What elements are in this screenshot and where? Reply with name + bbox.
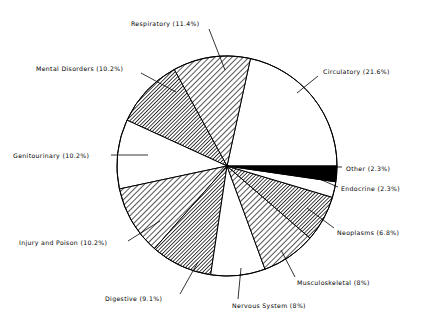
slice-label: Respiratory (11.4%) bbox=[131, 20, 200, 28]
slice-label: Nervous System (8%) bbox=[232, 302, 306, 310]
pie-chart-figure: Circulatory (21.6%)Respiratory (11.4%)Me… bbox=[0, 0, 435, 331]
pie-chart-canvas: Circulatory (21.6%)Respiratory (11.4%)Me… bbox=[0, 0, 435, 331]
slice-label: Endocrine (2.3%) bbox=[341, 185, 400, 192]
slice-label: Other (2.3%) bbox=[346, 165, 390, 172]
slice-label: Musculoskeletal (8%) bbox=[297, 279, 370, 286]
slice-label: Neoplasms (6.8%) bbox=[337, 229, 399, 237]
slice-label: Injury and Poison (10.2%) bbox=[19, 239, 107, 247]
slice-label: Circulatory (21.6%) bbox=[323, 68, 390, 76]
slice-label: Digestive (9.1%) bbox=[105, 295, 162, 303]
slice-label: Mental Disorders (10.2%) bbox=[36, 65, 123, 72]
pie-slices bbox=[117, 56, 337, 276]
slice-label: Genitourinary (10.2%) bbox=[13, 152, 89, 160]
